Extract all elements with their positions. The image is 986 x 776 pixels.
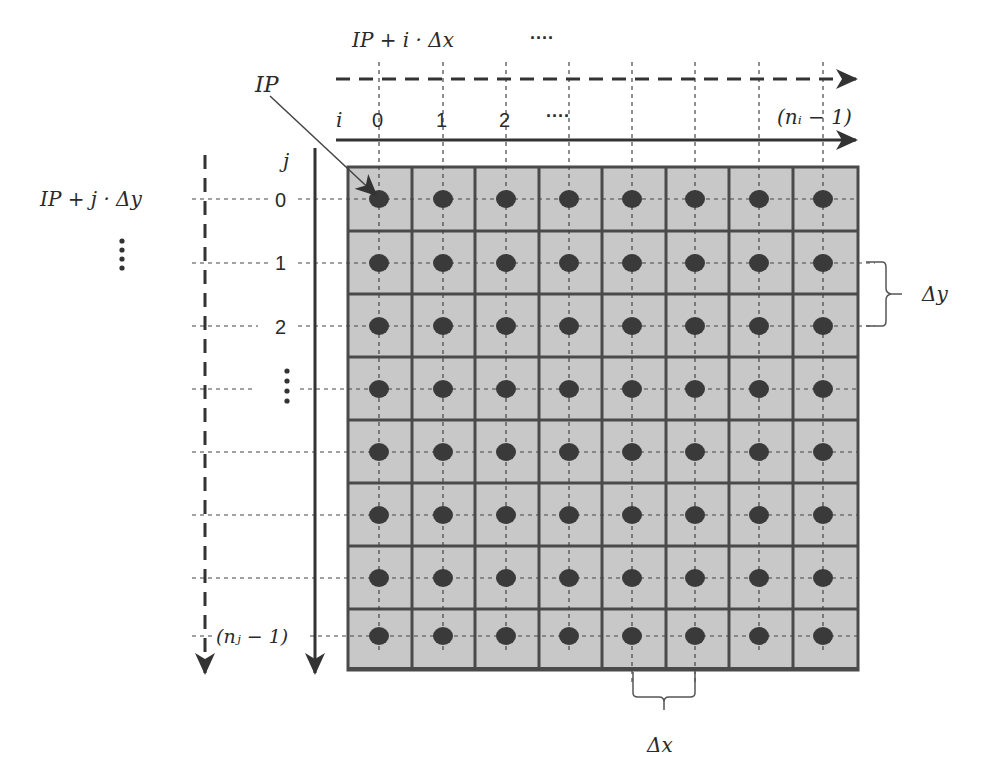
grid-point (685, 443, 705, 461)
i-tick-ellipsis: ···· (546, 106, 570, 126)
grid-point (813, 190, 833, 208)
j-tick-ellipsis (284, 368, 289, 403)
grid-point (559, 380, 579, 398)
delta-x-brace (633, 672, 695, 710)
grid-point (433, 569, 453, 587)
delta-y-label: Δy (921, 282, 948, 306)
grid-point (749, 569, 769, 587)
j-tick-last: (nⱼ − 1) (216, 625, 288, 647)
grid-point (749, 254, 769, 272)
grid-point (433, 506, 453, 524)
grid-point (496, 506, 516, 524)
grid-point (559, 627, 579, 645)
grid-point (622, 254, 642, 272)
grid-point (496, 317, 516, 335)
grid-point (813, 443, 833, 461)
grid-point (622, 317, 642, 335)
grid-point (369, 190, 389, 208)
grid-point (559, 254, 579, 272)
j-tick-1: 1 (275, 252, 286, 274)
grid-point (559, 569, 579, 587)
grid-point (749, 190, 769, 208)
grid (348, 167, 858, 671)
grid-point (559, 190, 579, 208)
ip-pointer-arrow (270, 96, 376, 195)
grid-point (496, 443, 516, 461)
grid-point (496, 569, 516, 587)
grid-point (369, 443, 389, 461)
j-axis-label: j (279, 149, 289, 173)
grid-point (369, 627, 389, 645)
grid-point (496, 380, 516, 398)
grid-point (685, 317, 705, 335)
delta-x-label: Δx (646, 733, 673, 757)
grid-point (622, 380, 642, 398)
grid-point (622, 506, 642, 524)
grid-point (496, 627, 516, 645)
grid-point (749, 506, 769, 524)
grid-point (433, 627, 453, 645)
grid-point (559, 443, 579, 461)
i-tick-2: 2 (499, 109, 510, 131)
grid-point (622, 569, 642, 587)
grid-point (749, 317, 769, 335)
x-position-formula: IP + i · Δx (351, 28, 454, 52)
grid-point (813, 506, 833, 524)
grid-point (369, 506, 389, 524)
grid-point (622, 627, 642, 645)
grid-point (369, 254, 389, 272)
grid-point (433, 317, 453, 335)
grid-point (813, 317, 833, 335)
grid-point (813, 627, 833, 645)
grid-point (496, 190, 516, 208)
j-tick-0: 0 (275, 189, 286, 211)
i-axis-label: i (336, 108, 342, 132)
grid-point (685, 380, 705, 398)
grid-index-diagram: IP IP + i · Δx ···· i 0 1 2 ···· (nᵢ − 1… (0, 0, 986, 776)
grid-point (749, 443, 769, 461)
grid-point (813, 380, 833, 398)
grid-point (685, 569, 705, 587)
grid-point (685, 254, 705, 272)
grid-point (813, 569, 833, 587)
grid-point (559, 317, 579, 335)
grid-point (433, 380, 453, 398)
grid-point (685, 627, 705, 645)
grid-point (433, 254, 453, 272)
i-tick-1: 1 (436, 109, 447, 131)
grid-point (433, 443, 453, 461)
grid-point (685, 190, 705, 208)
grid-point (433, 190, 453, 208)
ip-label: IP (254, 72, 280, 97)
i-tick-last: (nᵢ − 1) (777, 105, 852, 129)
j-tick-2: 2 (275, 316, 286, 338)
grid-point (369, 317, 389, 335)
delta-y-brace (866, 262, 902, 326)
grid-point (622, 443, 642, 461)
x-position-ellipsis: ···· (530, 28, 554, 48)
i-tick-0: 0 (372, 109, 383, 131)
grid-point (813, 254, 833, 272)
grid-point (685, 506, 705, 524)
y-position-ellipsis (119, 238, 124, 270)
grid-point (496, 254, 516, 272)
grid-point (622, 190, 642, 208)
grid-point (369, 569, 389, 587)
grid-point (369, 380, 389, 398)
grid-point (749, 627, 769, 645)
grid-point (559, 506, 579, 524)
y-position-formula: IP + j · Δy (39, 187, 143, 211)
grid-point (749, 380, 769, 398)
